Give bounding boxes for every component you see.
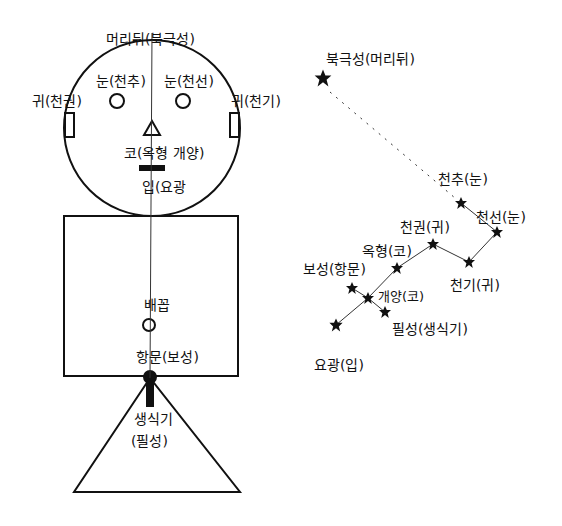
head-back-label: 머리뒤(북극성) [106, 32, 195, 46]
pilseong-label: 필성(생식기) [392, 322, 468, 336]
left-ear-label: 귀(천권) [32, 94, 82, 108]
left-eye-label: 눈(천추) [96, 74, 146, 88]
star-polaris-icon [315, 70, 332, 87]
left-ear [65, 113, 74, 137]
polaris-label: 북극성(머리뒤) [326, 52, 415, 66]
mouth-bar [140, 166, 164, 170]
polaris-dotted-line [330, 92, 455, 198]
navel-label: 배꼽 [144, 298, 170, 312]
cheongwon-label: 천권(귀) [400, 220, 450, 234]
star-pilseong-icon [379, 306, 391, 318]
star-cheonchu-icon [455, 197, 467, 209]
okhyeong-label: 옥형(코) [362, 244, 412, 258]
navel-circle [143, 319, 155, 331]
cheonchu-label: 천추(눈) [438, 172, 488, 186]
anus-label: 항문(보성) [136, 350, 199, 364]
left-eye [110, 94, 124, 108]
diagram-canvas [0, 0, 562, 526]
cheonseon-label: 천선(눈) [476, 210, 526, 224]
center-axis-line [150, 33, 152, 378]
bosung-label: 보성(항문) [303, 262, 366, 276]
right-ear-label: 귀(천기) [231, 94, 281, 108]
right-eye-label: 눈(천선) [164, 74, 214, 88]
cheongi-label: 천기(귀) [450, 278, 500, 292]
yogwang-label: 요광(입) [314, 358, 364, 372]
right-ear [230, 113, 239, 137]
nose-triangle [144, 121, 160, 135]
star-bosung-icon [346, 282, 358, 294]
gaeyang-label: 개양(코) [378, 290, 424, 303]
star-yogwang-icon [329, 318, 342, 331]
genital-label-line1: 생식기 [134, 412, 173, 426]
nose-label: 코(옥형 개양) [124, 146, 204, 160]
genital-label-line2: (필성) [131, 434, 168, 448]
mouth-label: 입(요광 [142, 180, 186, 194]
star-cheongwon-icon [427, 238, 439, 250]
genital-stem [147, 380, 153, 406]
right-eye [176, 94, 190, 108]
